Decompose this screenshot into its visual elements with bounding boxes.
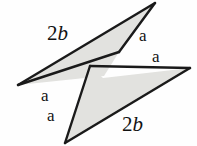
- label-a-left: a: [41, 87, 49, 104]
- label-2b-top-variable: b: [58, 21, 69, 45]
- label-a-right: a: [152, 48, 160, 65]
- geometry-figure: 2b a a a a 2b: [0, 0, 197, 146]
- label-2b-top: 2b: [47, 23, 68, 44]
- label-a-top: a: [139, 27, 147, 44]
- label-a-bottom: a: [47, 107, 55, 124]
- triangles-diagram: [0, 0, 197, 146]
- label-2b-top-number: 2: [47, 21, 58, 45]
- label-2b-bottom-variable: b: [133, 112, 144, 136]
- label-2b-bottom-number: 2: [122, 112, 133, 136]
- label-2b-bottom: 2b: [122, 114, 143, 135]
